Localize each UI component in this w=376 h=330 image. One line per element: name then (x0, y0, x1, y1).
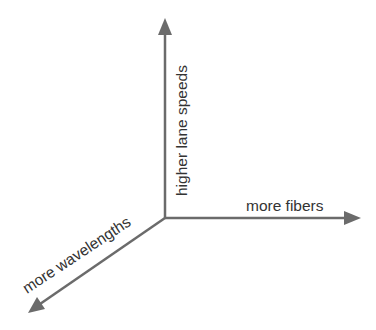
horizontal-arrowhead-icon (344, 211, 361, 225)
vertical-axis-label: higher lane speeds (173, 65, 190, 196)
horizontal-axis-label: more fibers (246, 197, 324, 214)
diagonal-axis-label: more wavelengths (19, 213, 133, 297)
vertical-arrowhead-icon (158, 18, 172, 35)
axes-diagram: higher lane speeds more fibers more wave… (0, 0, 376, 330)
diagonal-arrowhead-icon (28, 297, 45, 313)
